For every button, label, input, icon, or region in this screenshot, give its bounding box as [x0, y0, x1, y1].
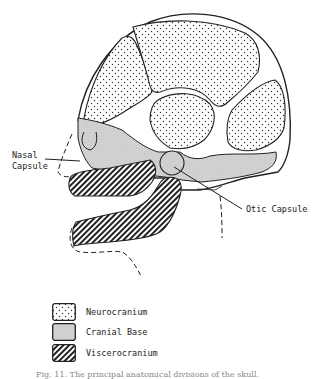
- otic-capsule-label: Otic Capsule: [246, 204, 307, 215]
- nasal-capsule-pointer: [45, 159, 80, 161]
- legend-label: Cranial Base: [86, 327, 147, 337]
- gray-swatch-icon: [52, 323, 76, 341]
- legend-label: Viscerocranium: [86, 348, 158, 358]
- nasal-capsule-label: Nasal Capsule: [12, 150, 48, 172]
- figure-caption: Fig. 11. The principal anatomical divisi…: [36, 370, 259, 379]
- legend-item-neurocranium: Neurocranium: [52, 302, 147, 322]
- stipple-swatch-icon: [52, 303, 76, 321]
- legend-item-cranial-base: Cranial Base: [52, 322, 147, 342]
- hatch-swatch-icon: [52, 344, 76, 362]
- legend-label: Neurocranium: [86, 307, 147, 317]
- legend-item-viscerocranium: Viscerocranium: [52, 343, 158, 363]
